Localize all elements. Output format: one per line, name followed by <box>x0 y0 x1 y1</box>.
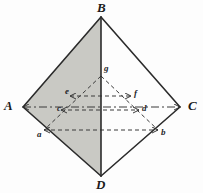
point-label-f: f <box>134 89 137 98</box>
vertex-label-b: B <box>97 1 106 14</box>
diagram-canvas <box>0 0 203 193</box>
edge-CD <box>101 107 180 176</box>
point-label-e: e <box>65 87 69 96</box>
point-label-b: b <box>161 128 166 137</box>
vertex-label-c: C <box>188 99 197 112</box>
line-gb <box>101 76 158 130</box>
edge-BC <box>101 17 180 107</box>
point-label-a: a <box>37 130 42 139</box>
point-label-g: g <box>104 64 109 73</box>
vertex-label-d: D <box>96 178 105 191</box>
point-label-c: c <box>57 104 61 113</box>
vertex-label-a: A <box>4 99 13 112</box>
geometry-figure: B A C D g e f c d a b <box>0 0 203 193</box>
point-label-d: d <box>142 104 147 113</box>
shaded-region-triangle-abd <box>23 17 101 176</box>
